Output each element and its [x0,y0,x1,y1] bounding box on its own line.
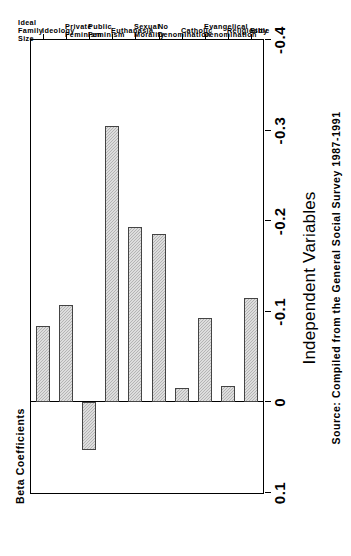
bar [105,126,119,402]
bar [152,234,166,403]
bar-chart-figure: Beta Coefficients 0.10-0.1-0.2-0.3-0.4 I… [0,0,351,556]
bar [128,227,142,403]
rotated-figure-wrapper: Beta Coefficients 0.10-0.1-0.2-0.3-0.4 I… [0,0,351,556]
bar [82,402,96,449]
category-label: Ideal Family Size [18,19,43,44]
value-tick-label: 0.1 [271,482,288,504]
bar [198,318,212,402]
value-axis-title: Beta Coefficients [14,408,26,504]
value-tick-label: -0.4 [271,26,288,54]
bar [59,305,73,403]
bar [221,386,235,402]
value-tick-label: 0 [271,398,288,407]
bar [244,298,258,402]
plot-area: 0.10-0.1-0.2-0.3-0.4 [30,39,264,494]
value-tick-label: -0.2 [271,207,288,235]
category-label: Ideology [42,27,75,35]
category-label: No Denomination [158,23,211,39]
bar [175,388,189,402]
value-tick-label: -0.3 [271,117,288,145]
category-axis-title: Independent Variables [300,0,320,556]
value-tick-label: -0.1 [271,298,288,326]
source-note: Source: Compiled from the General Social… [330,0,342,556]
bar [36,326,50,402]
